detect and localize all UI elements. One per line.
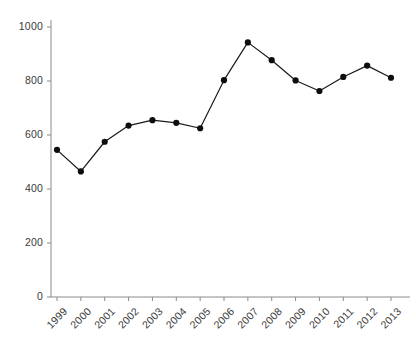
y-tick-label: 0: [37, 290, 43, 302]
axis-lines: [51, 20, 410, 297]
y-tick-label: 200: [25, 236, 43, 248]
data-point-markers: [54, 39, 394, 174]
data-point: [54, 147, 60, 153]
x-tick-marks: [57, 297, 391, 301]
data-point: [197, 125, 203, 131]
data-point: [173, 120, 179, 126]
line-chart: 02004006008001000 1999200020012002200320…: [0, 0, 416, 361]
y-tick-label: 1000: [19, 20, 43, 32]
data-point: [269, 57, 275, 63]
data-point: [102, 139, 108, 145]
data-point: [316, 88, 322, 94]
data-point: [125, 122, 131, 128]
y-tick-marks: [47, 27, 51, 297]
y-tick-label: 400: [25, 182, 43, 194]
data-point: [388, 75, 394, 81]
data-point: [149, 117, 155, 123]
data-point: [245, 39, 251, 45]
data-point: [364, 63, 370, 69]
data-point: [292, 77, 298, 83]
data-point: [340, 74, 346, 80]
data-point: [78, 168, 84, 174]
data-line: [57, 42, 391, 171]
y-tick-label: 800: [25, 74, 43, 86]
data-point: [221, 77, 227, 83]
y-tick-label: 600: [25, 128, 43, 140]
